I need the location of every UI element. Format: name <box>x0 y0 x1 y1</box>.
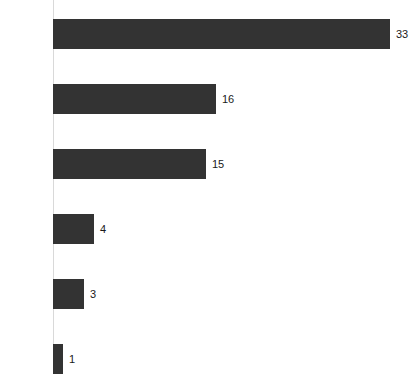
bar-value-label: 33 <box>396 19 408 49</box>
bar-value-label: 15 <box>212 149 224 179</box>
bar-natural <box>53 214 94 244</box>
bar-field <box>53 149 206 179</box>
y-axis-spine <box>53 0 54 372</box>
bar-chart: Survey 33 Lab 16 Field 15 Natural 4 Quas… <box>0 0 420 386</box>
bar-value-label: 1 <box>69 344 75 374</box>
bar-survey <box>53 19 390 49</box>
bar-value-label: 3 <box>90 279 96 309</box>
bar-value-label: 4 <box>100 214 106 244</box>
bar-mixed <box>53 344 63 374</box>
bar-value-label: 16 <box>222 84 234 114</box>
bar-quasi <box>53 279 84 309</box>
bar-lab <box>53 84 216 114</box>
